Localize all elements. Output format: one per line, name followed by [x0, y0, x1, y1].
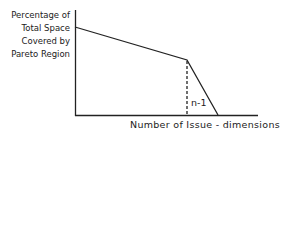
x-axis-label: Number of Issue - dimensions	[130, 119, 280, 130]
n-minus-1-label: n-1	[191, 97, 207, 108]
